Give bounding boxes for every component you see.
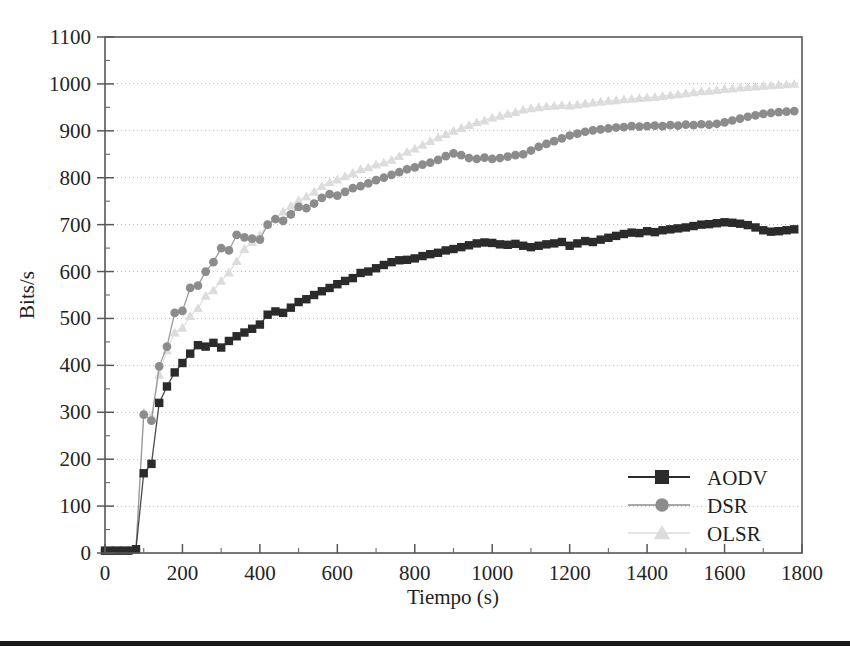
- data-point: [728, 116, 737, 125]
- data-point: [318, 287, 326, 295]
- data-point: [550, 137, 559, 146]
- data-point: [589, 238, 597, 246]
- data-point: [627, 228, 635, 236]
- y-axis-title: Bits/s: [15, 271, 39, 319]
- y-tick-label-200: 200: [60, 447, 92, 471]
- data-point: [372, 264, 380, 272]
- data-point: [201, 267, 210, 276]
- x-tick-label-1000: 1000: [471, 561, 513, 585]
- data-point: [736, 114, 745, 123]
- data-point: [759, 226, 767, 234]
- data-point: [658, 226, 666, 234]
- x-tick-label-1600: 1600: [704, 561, 746, 585]
- data-point: [163, 342, 172, 351]
- data-point: [140, 469, 148, 477]
- data-point: [705, 120, 714, 129]
- data-point: [720, 218, 728, 226]
- data-point: [635, 229, 643, 237]
- data-point: [217, 244, 226, 253]
- data-point: [542, 140, 551, 149]
- data-point: [620, 230, 628, 238]
- data-point: [705, 220, 713, 228]
- y-tick-label-900: 900: [60, 119, 92, 143]
- data-point: [379, 173, 388, 182]
- data-point: [449, 245, 457, 253]
- data-point: [612, 123, 621, 132]
- line-chart: 020040060080010001200140016001800 010020…: [0, 0, 850, 625]
- data-point: [333, 191, 342, 200]
- data-point: [457, 151, 466, 160]
- data-point: [666, 225, 674, 233]
- data-point: [178, 307, 187, 316]
- data-point: [171, 368, 179, 376]
- data-point: [651, 228, 659, 236]
- y-tick-label-100: 100: [60, 494, 92, 518]
- data-point: [325, 190, 334, 199]
- data-point: [496, 154, 505, 163]
- data-point: [550, 239, 558, 247]
- data-point: [534, 242, 542, 250]
- data-point: [286, 210, 295, 219]
- data-point: [635, 122, 644, 131]
- data-point: [248, 325, 256, 333]
- data-point: [604, 124, 613, 133]
- data-point: [658, 122, 667, 131]
- data-point: [790, 225, 798, 233]
- data-point: [256, 320, 264, 328]
- data-point: [534, 142, 543, 151]
- data-point: [178, 359, 186, 367]
- data-point: [271, 215, 280, 224]
- data-point: [527, 146, 536, 155]
- x-tick-label-200: 200: [167, 561, 199, 585]
- data-point: [294, 202, 303, 211]
- data-point: [457, 243, 465, 251]
- data-point: [511, 240, 519, 248]
- data-point: [527, 243, 535, 251]
- data-point: [782, 107, 791, 116]
- data-point: [581, 127, 590, 136]
- data-point: [643, 227, 651, 235]
- data-point: [403, 256, 411, 264]
- y-tick-label-700: 700: [60, 213, 92, 237]
- data-point: [565, 131, 574, 140]
- data-point: [650, 121, 659, 130]
- data-point: [612, 232, 620, 240]
- data-point: [348, 184, 357, 193]
- y-tick-label-300: 300: [60, 400, 92, 424]
- data-point: [790, 107, 799, 116]
- data-point: [682, 223, 690, 231]
- data-point: [395, 256, 403, 264]
- data-point: [465, 241, 473, 249]
- data-point: [681, 120, 690, 129]
- data-point: [132, 545, 140, 553]
- x-tick-label-1800: 1800: [781, 561, 823, 585]
- data-point: [767, 227, 775, 235]
- data-point: [627, 122, 636, 131]
- data-point: [751, 223, 759, 231]
- data-point: [418, 160, 427, 169]
- x-tick-label-0: 0: [100, 561, 111, 585]
- data-point: [287, 303, 295, 311]
- data-point: [155, 362, 164, 371]
- data-point: [225, 246, 234, 255]
- data-point: [279, 309, 287, 317]
- data-point: [573, 129, 582, 138]
- data-point: [449, 149, 458, 158]
- data-point: [596, 125, 605, 134]
- data-point: [503, 152, 512, 161]
- data-point: [186, 349, 194, 357]
- data-point: [759, 110, 768, 119]
- data-point: [256, 235, 265, 244]
- data-point: [558, 238, 566, 246]
- legend-marker-square-icon: [655, 470, 669, 484]
- data-point: [225, 337, 233, 345]
- y-tick-label-1100: 1100: [50, 25, 91, 49]
- data-point: [356, 269, 364, 277]
- data-point: [248, 234, 257, 243]
- data-point: [341, 277, 349, 285]
- data-point: [372, 176, 381, 185]
- data-point: [689, 222, 697, 230]
- data-point: [542, 240, 550, 248]
- data-point: [558, 134, 567, 143]
- data-point: [441, 152, 450, 161]
